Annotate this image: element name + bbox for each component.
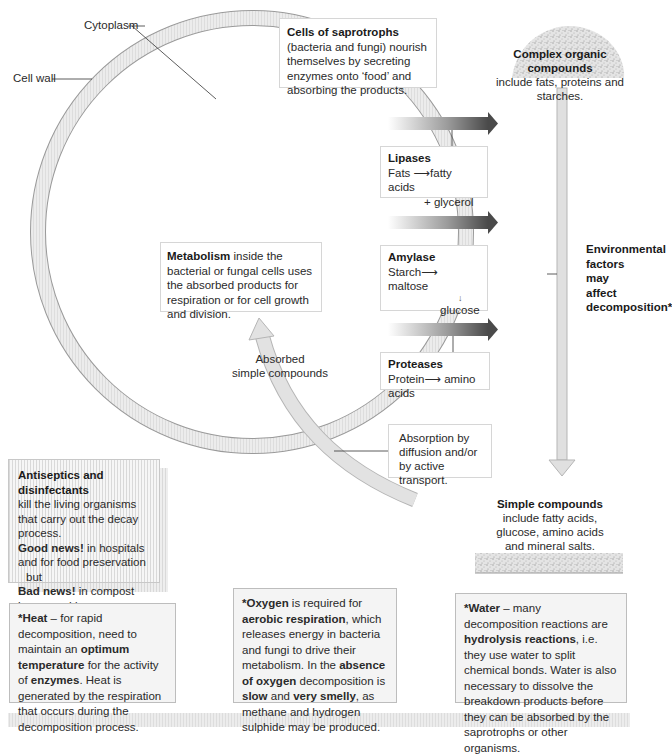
cell-wall-label: Cell wall [13, 71, 56, 85]
enzyme-arrow-protease [388, 318, 498, 352]
enzyme-box-lipases: Lipases Fats ⟶fatty acids + glycerol [380, 146, 488, 198]
metabolism-info-box: Metabolism inside the bacterial or funga… [160, 242, 322, 312]
good-news-label: Good news! [18, 542, 84, 554]
down-arrow-icon: ↓ [388, 294, 480, 303]
bad-news-label: Bad news! [18, 585, 76, 597]
reaction-arrow-icon: ⟶ [421, 266, 438, 278]
reaction-arrow-icon: ⟶ [414, 167, 431, 179]
enzyme-name: Amylase [388, 250, 480, 265]
oxygen-factor-box: *Oxygen is required for aerobic respirat… [233, 588, 397, 703]
oxygen-title: *Oxygen [242, 597, 289, 609]
decomposition-arrow [547, 88, 575, 476]
oxygen-text: is required for [289, 597, 363, 609]
enzyme-name: Lipases [388, 151, 480, 166]
saprotrophs-title: Cells of saprotrophs [287, 26, 399, 38]
complex-compounds-title: Complex organic compounds [482, 47, 638, 75]
reactant: Starch [388, 266, 421, 278]
heat-bold: enzymes [31, 674, 80, 686]
environmental-factors-label: Environmental factors may affect decompo… [586, 242, 638, 315]
absorbed-line1: Absorbed [228, 352, 332, 366]
absorption-info-box: Absorption by diffusion and/or by active… [388, 424, 492, 478]
enzyme-box-proteases: Proteases Protein⟶ amino acids [380, 352, 490, 390]
water-factor-box: *Water – many decomposition reactions ar… [455, 593, 627, 703]
simple-compound-bed [475, 553, 623, 573]
enzyme-box-amylase: Amylase Starch⟶ maltose ↓ glucose [380, 245, 488, 311]
antiseptics-text: kill the living organisms that carry out… [18, 497, 150, 541]
simple-compounds-text: include fatty acids, glucose, amino acid… [490, 511, 610, 553]
simple-compounds-title: Simple compounds [490, 497, 610, 511]
product-extra: + glycerol [388, 195, 480, 210]
heat-title: *Heat [18, 612, 47, 624]
oxygen-text: and [268, 690, 294, 702]
absorbed-label: Absorbed simple compounds [228, 352, 332, 380]
oxygen-bold: aerobic respiration [242, 613, 346, 625]
oxygen-text: decomposition is [296, 675, 385, 687]
complex-compounds-label: Complex organic compounds include fats, … [482, 47, 638, 103]
metabolism-title: Metabolism [167, 250, 230, 262]
reactant: Protein [388, 373, 424, 385]
reaction-arrow-icon: ⟶ [424, 373, 441, 385]
product-extra: glucose [388, 303, 480, 318]
cytoplasm-label: Cytoplasm [84, 18, 138, 32]
water-bold: hydrolysis reactions [464, 633, 576, 645]
enzyme-arrow-amylase [388, 211, 498, 234]
antiseptics-title: Antiseptics and disinfectants [18, 468, 150, 497]
product: maltose [388, 280, 428, 292]
enzyme-name: Proteases [388, 357, 482, 372]
antiseptics-info-box: Antiseptics and disinfectants kill the l… [8, 459, 160, 583]
saprotrophs-info-box: Cells of saprotrophs (bacteria and fungi… [279, 18, 437, 88]
water-text: , i.e. they use water to split chemical … [464, 633, 616, 754]
reactant: Fats [388, 167, 410, 179]
water-title: *Water [464, 602, 500, 614]
but-text: but [18, 570, 150, 585]
absorbed-line2: simple compounds [228, 366, 332, 380]
oxygen-bold: slow [242, 690, 268, 702]
heat-factor-box: *Heat – for rapid decomposition, need to… [9, 603, 176, 703]
saprotrophs-text: (bacteria and fungi) nourish themselves … [287, 41, 427, 97]
complex-compounds-subtitle: include fats, proteins and starches. [482, 75, 638, 103]
simple-compounds-label: Simple compounds include fatty acids, gl… [490, 497, 610, 553]
oxygen-bold: very smelly [293, 690, 356, 702]
